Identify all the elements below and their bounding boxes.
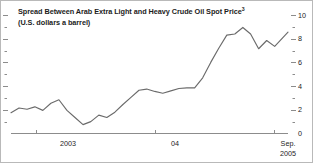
x-tick-label-2003: 2003	[48, 139, 88, 148]
y-tick-label-4: 4	[298, 82, 302, 91]
left-tick-marks	[3, 16, 8, 123]
x-tick-label-04: 04	[155, 139, 195, 148]
right-tick-marks	[291, 16, 296, 123]
x-tick-marks	[37, 130, 275, 134]
y-tick-label-10: 10	[298, 11, 306, 20]
y-tick-label-8: 8	[298, 34, 302, 43]
y-tick-label-2: 2	[298, 105, 302, 114]
chart-figure: Spread Between Arab Extra Light and Heav…	[0, 0, 314, 164]
x-tick-label-sep-line1: Sep.	[268, 139, 308, 149]
y-tick-label-0: 0	[298, 129, 302, 138]
data-series-line	[11, 27, 288, 124]
y-tick-label-6: 6	[298, 58, 302, 67]
x-tick-label-2005-line2: 2005	[268, 149, 308, 159]
